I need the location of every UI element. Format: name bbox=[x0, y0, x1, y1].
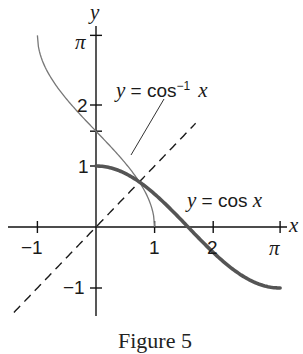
acos-label-y: y bbox=[116, 78, 125, 102]
figure-caption: Figure 5 bbox=[118, 328, 192, 354]
acos-curve-label: y = cos−1x bbox=[116, 80, 208, 101]
cos-label-eq: = cos bbox=[196, 190, 253, 211]
y-axis-label: y bbox=[90, 2, 99, 23]
cos-label-x: x bbox=[253, 188, 262, 212]
identity-line-dashed bbox=[14, 123, 196, 312]
x-axis-label: x bbox=[289, 215, 298, 236]
acos-label-eq: = cos bbox=[125, 80, 176, 101]
x-tick-pi: π bbox=[269, 238, 280, 259]
cos-label-y: y bbox=[187, 188, 196, 212]
acos-label-sup: −1 bbox=[177, 79, 191, 93]
x-tick-2: 2 bbox=[207, 238, 218, 257]
x-tick-1: 1 bbox=[149, 238, 160, 257]
acos-label-x: x bbox=[198, 78, 207, 102]
acos-label-leader-line bbox=[131, 99, 164, 155]
cos-curve-label: y = cos x bbox=[187, 190, 262, 211]
y-tick-2: 2 bbox=[77, 96, 88, 115]
y-tick-pi: π bbox=[75, 32, 86, 53]
x-tick-neg1: −1 bbox=[21, 238, 43, 257]
y-tick-neg1: −1 bbox=[63, 278, 85, 297]
y-tick-1: 1 bbox=[78, 157, 89, 176]
